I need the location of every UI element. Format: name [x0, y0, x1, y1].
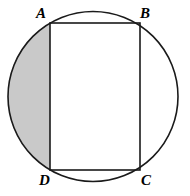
circle-rectangle-diagram: [0, 0, 190, 196]
vertex-label-d: D: [39, 173, 50, 188]
shaded-segment-region: [8, 23, 50, 170]
geometry-figure: A B D C: [0, 0, 190, 196]
vertex-label-b: B: [140, 6, 150, 21]
rectangle-interior: [50, 23, 140, 170]
vertex-label-c: C: [141, 173, 151, 188]
vertex-label-a: A: [36, 6, 46, 21]
